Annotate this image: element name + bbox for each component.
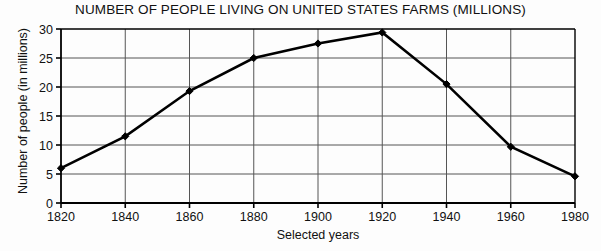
gridlines	[61, 29, 575, 203]
y-tick-label: 10	[39, 139, 53, 153]
line-chart-plot: 051015202530 182018401860188019001920194…	[0, 0, 601, 251]
x-tick-label: 1960	[497, 210, 525, 224]
y-tick-label: 15	[39, 110, 53, 124]
x-tick-label: 1940	[433, 210, 461, 224]
y-tick-label: 25	[39, 52, 53, 66]
y-tick-label: 5	[46, 168, 53, 182]
y-tick-labels: 051015202530	[39, 23, 53, 211]
x-tick-labels: 182018401860188019001920194019601980	[47, 210, 589, 224]
x-tick-label: 1860	[176, 210, 204, 224]
y-tick-label: 30	[39, 23, 53, 37]
x-tick-label: 1840	[111, 210, 139, 224]
chart-figure: NUMBER OF PEOPLE LIVING ON UNITED STATES…	[0, 0, 601, 251]
y-tick-label: 20	[39, 81, 53, 95]
data-point-marker	[314, 40, 321, 47]
y-tick-label: 0	[46, 197, 53, 211]
x-tick-label: 1900	[304, 210, 332, 224]
x-tick-label: 1880	[240, 210, 268, 224]
x-tick-label: 1920	[368, 210, 396, 224]
x-tick-label: 1820	[47, 210, 75, 224]
x-axis-label: Selected years	[61, 228, 575, 242]
x-tick-label: 1980	[561, 210, 589, 224]
